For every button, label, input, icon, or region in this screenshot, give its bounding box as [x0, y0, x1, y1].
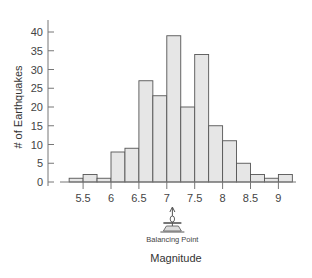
y-tick-label: 25 — [31, 82, 43, 94]
histogram-bar — [83, 175, 97, 183]
histogram-bar — [251, 175, 265, 183]
histogram-bar — [195, 55, 209, 183]
y-tick-label: 30 — [31, 64, 43, 76]
y-tick-label: 15 — [31, 120, 43, 132]
histogram-bar — [181, 107, 195, 182]
y-tick-label: 5 — [37, 157, 43, 169]
x-axis-title: Magnitude — [150, 252, 201, 264]
histogram-bar — [237, 163, 251, 182]
histogram-bar — [167, 36, 181, 182]
histogram-bar — [264, 178, 278, 182]
y-tick-label: 20 — [31, 101, 43, 113]
x-axis: 5.566.577.588.59 — [60, 182, 296, 204]
histogram-bar — [97, 178, 111, 182]
histogram-bar — [153, 96, 167, 182]
x-tick-label: 5.5 — [75, 192, 90, 204]
y-tick-label: 35 — [31, 45, 43, 57]
y-tick-label: 0 — [37, 176, 43, 188]
histogram-bar — [69, 178, 83, 182]
y-axis-title: # of Earthquakes — [12, 65, 24, 149]
x-tick-label: 8.5 — [243, 192, 258, 204]
balancing-point-annotation: Balancing Point — [146, 207, 199, 244]
histogram-bar — [209, 126, 223, 182]
y-axis: 0510152025303540 — [31, 20, 54, 188]
histogram-bar — [125, 148, 139, 182]
histogram-bar — [278, 175, 292, 183]
histogram-bar — [223, 141, 237, 182]
x-tick-label: 9 — [275, 192, 281, 204]
histogram-bar — [111, 152, 125, 182]
y-tick-label: 10 — [31, 139, 43, 151]
histogram-chart: 0510152025303540 5.566.577.588.59 # of E… — [0, 0, 312, 278]
balancing-point-label: Balancing Point — [146, 235, 199, 244]
x-tick-label: 6 — [108, 192, 114, 204]
histogram-bars — [69, 36, 292, 182]
x-tick-label: 7.5 — [187, 192, 202, 204]
x-tick-label: 7 — [164, 192, 170, 204]
y-tick-label: 40 — [31, 26, 43, 38]
fulcrum-icon — [170, 216, 174, 222]
x-tick-label: 8 — [220, 192, 226, 204]
x-tick-label: 6.5 — [131, 192, 146, 204]
histogram-bar — [139, 81, 153, 182]
